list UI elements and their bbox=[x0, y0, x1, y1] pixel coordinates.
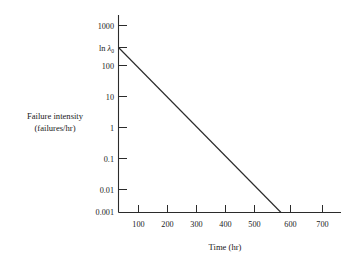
ln-lambda-zero-annotation: ln λ0 bbox=[99, 44, 114, 54]
failure-intensity-line bbox=[119, 48, 282, 213]
x-tick-label-600: 600 bbox=[284, 220, 296, 229]
x-tick-label-500: 500 bbox=[248, 220, 260, 229]
y-tick-label-1: 1 bbox=[110, 124, 114, 133]
x-tick-label-300: 300 bbox=[190, 220, 202, 229]
y-tick-label-10: 10 bbox=[106, 93, 114, 102]
x-tick-label-400: 400 bbox=[219, 220, 231, 229]
failure-intensity-chart: 1000 100 10 1 0.1 0.01 0.001 ln λ0 100 2… bbox=[0, 0, 351, 264]
y-axis-title-line1: Failure intensity bbox=[27, 111, 84, 121]
x-tick-label-200: 200 bbox=[161, 220, 173, 229]
chart-svg: 1000 100 10 1 0.1 0.01 0.001 ln λ0 100 2… bbox=[0, 0, 351, 264]
y-tick-label-0.1: 0.1 bbox=[104, 155, 114, 164]
x-axis-title: Time (hr) bbox=[209, 242, 242, 252]
x-axis-ticks bbox=[139, 205, 323, 213]
y-tick-label-0.01: 0.01 bbox=[100, 186, 114, 195]
ln-prefix: ln bbox=[99, 44, 108, 53]
y-tick-label-0.001: 0.001 bbox=[96, 208, 114, 217]
x-tick-label-700: 700 bbox=[316, 220, 328, 229]
y-tick-label-1000: 1000 bbox=[98, 22, 114, 31]
x-tick-label-100: 100 bbox=[132, 220, 144, 229]
lambda-subscript: 0 bbox=[111, 48, 114, 54]
x-axis-tick-labels: 100 200 300 400 500 600 700 bbox=[132, 220, 328, 229]
y-axis-title-line2: (failures/hr) bbox=[34, 123, 75, 133]
y-axis-ticks bbox=[119, 26, 128, 190]
y-tick-label-100: 100 bbox=[102, 62, 114, 71]
